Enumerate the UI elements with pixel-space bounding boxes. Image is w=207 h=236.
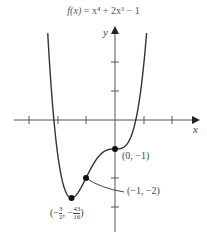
function-curve	[48, 33, 147, 198]
point-0-neg1	[112, 146, 118, 152]
point-label-neg1-neg2: (−1, −2)	[127, 185, 160, 196]
y-axis-label: y	[103, 26, 108, 38]
x-axis-label: x	[193, 123, 198, 135]
point-minimum	[69, 195, 75, 201]
point-label-0-neg1: (0, −1)	[122, 150, 149, 161]
leader-line	[86, 178, 124, 192]
point-label-minimum: (−32, −4316)	[50, 206, 83, 221]
point-neg1-neg2	[83, 175, 89, 181]
